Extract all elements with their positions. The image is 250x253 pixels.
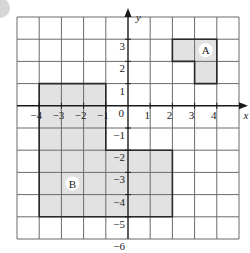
x-tick-label: −2	[75, 109, 87, 121]
x-tick-label: −4	[30, 109, 42, 121]
y-tick-label: −3	[113, 173, 125, 185]
coordinate-grid: −4−3−2−11234321−1−2−3−4−5−60xyAB	[0, 0, 250, 253]
y-tick-label: 1	[120, 85, 126, 97]
x-axis-label: x	[243, 109, 249, 121]
y-tick-label: −4	[113, 196, 125, 208]
shape-a-label: A	[202, 44, 210, 56]
y-tick-label: 3	[120, 40, 126, 52]
y-tick-label: 2	[120, 62, 126, 74]
x-tick-label: 4	[211, 109, 217, 121]
x-tick-label: 1	[144, 109, 150, 121]
y-axis-label: y	[135, 11, 141, 23]
shape-b-label: B	[69, 178, 76, 190]
x-tick-label: 2	[167, 109, 173, 121]
origin-label: 0	[119, 107, 125, 119]
x-tick-label: 3	[189, 109, 195, 121]
y-tick-label: −6	[113, 240, 125, 252]
x-tick-label: −3	[53, 109, 65, 121]
x-tick-label: −1	[97, 109, 109, 121]
y-tick-label: −1	[113, 129, 125, 141]
y-tick-label: −5	[113, 218, 125, 230]
y-tick-label: −2	[113, 151, 125, 163]
y-axis-arrow-icon	[125, 8, 132, 17]
